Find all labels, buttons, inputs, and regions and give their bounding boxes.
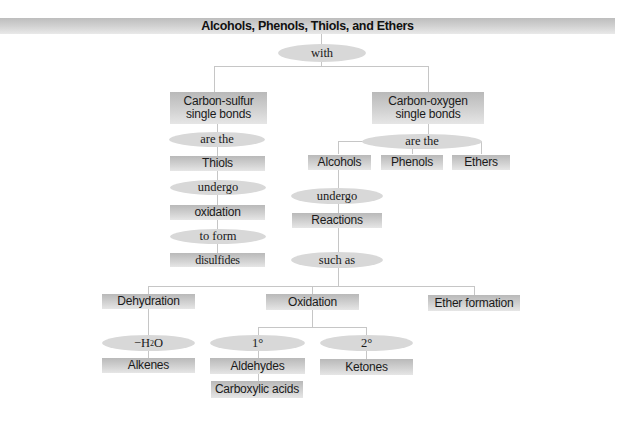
node-dehydration: Dehydration (102, 294, 195, 309)
connector (312, 286, 313, 294)
node-carbon-sulfur-bonds: Carbon-sulfur single bonds (170, 92, 267, 124)
connector (214, 66, 429, 67)
connector (214, 66, 215, 92)
link-with: with (278, 44, 366, 62)
condition-tail: O (154, 336, 163, 351)
connector (312, 310, 313, 327)
connector (481, 141, 482, 154)
node-aldehydes: Aldehydes (210, 358, 305, 374)
link-minus-water: −H2O (102, 335, 195, 351)
node-alkenes: Alkenes (102, 358, 195, 373)
connector (338, 141, 339, 154)
link-undergo-left: undergo (170, 180, 266, 195)
link-primary: 1° (210, 335, 305, 351)
node-alcohols: Alcohols (308, 155, 371, 170)
node-carbon-oxygen-bonds: Carbon-oxygen single bonds (372, 92, 484, 124)
connector (258, 327, 367, 328)
node-ethers: Ethers (452, 155, 510, 170)
node-thiols: Thiols (170, 156, 265, 171)
link-are-the-left: are the (169, 132, 265, 147)
condition-text: −H (134, 336, 150, 351)
link-secondary: 2° (320, 335, 413, 351)
node-oxidation-thiols: oxidation (170, 205, 265, 220)
node-label: single bonds (186, 108, 251, 121)
node-disulfides: disulfides (170, 253, 265, 267)
node-ether-formation: Ether formation (428, 295, 520, 311)
link-to-form: to form (170, 229, 266, 244)
connector (428, 124, 429, 134)
node-oxidation: Oxidation (266, 294, 359, 310)
connector (148, 286, 149, 294)
node-phenols: Phenols (381, 155, 443, 170)
link-are-the-right: are the (362, 134, 482, 149)
link-undergo-right: undergo (291, 188, 383, 204)
connector (474, 286, 475, 295)
connector (428, 66, 429, 92)
node-reactions: Reactions (292, 213, 382, 228)
node-label: single bonds (396, 108, 461, 121)
node-ketones: Ketones (320, 359, 413, 375)
node-carboxylic-acids: Carboxylic acids (211, 381, 303, 398)
diagram-title: Alcohols, Phenols, Thiols, and Ethers (0, 18, 615, 34)
link-such-as: such as (291, 252, 383, 268)
